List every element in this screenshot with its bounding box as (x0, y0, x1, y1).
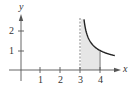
y-axis-arrow-icon (19, 14, 23, 21)
x-axis-arrow-icon (114, 68, 121, 72)
x-tick-label-1: 1 (38, 75, 43, 85)
x-axis-label: x (123, 64, 127, 74)
x-tick-label-2: 2 (58, 75, 63, 85)
y-axis-label: y (19, 2, 23, 12)
shaded-area (81, 19, 101, 70)
y-tick-label-1: 1 (9, 46, 14, 56)
x-tick-label-4: 4 (98, 75, 103, 85)
x-tick-label-3: 3 (78, 75, 83, 85)
y-tick-label-2: 2 (9, 26, 14, 36)
function-graph (0, 0, 136, 91)
